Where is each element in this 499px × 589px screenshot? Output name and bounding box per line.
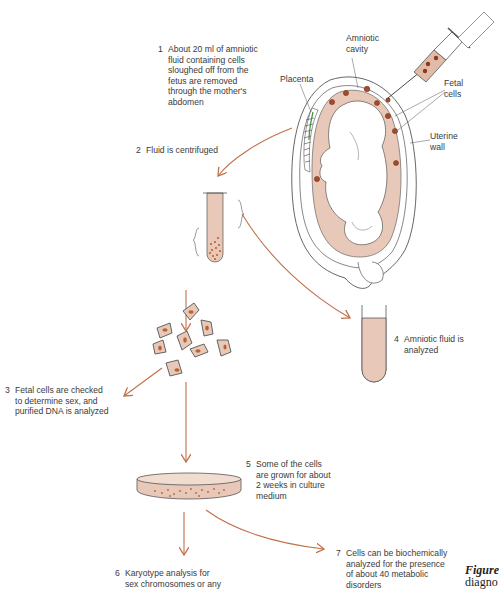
arrow-to-biochem (206, 510, 324, 549)
centrifuge-tube (193, 193, 244, 262)
arrow-to-centrifuge (218, 128, 292, 176)
brace-pellet (193, 228, 199, 256)
step-5: 5 Some of the cells are grown for about … (246, 459, 331, 501)
step-number: 6 (115, 568, 120, 579)
fetal-cells-cluster (153, 303, 231, 376)
step-number: 4 (394, 334, 399, 345)
label-amniotic-cavity: Amniotic cavity (346, 33, 379, 54)
step-7: 7 Cells can be biochemically analyzed fo… (336, 548, 447, 589)
step-text: About 20 ml of amniotic fluid containing… (168, 44, 258, 108)
step-1: 1 About 20 ml of amniotic fluid containi… (158, 44, 258, 108)
arrow-to-step3 (124, 368, 162, 396)
label-uterine-wall: Uterine wall (430, 131, 458, 152)
supernatant-tube (362, 305, 386, 382)
step-3: 3 Fetal cells are checked to determine s… (5, 385, 109, 417)
step-number: 3 (5, 385, 10, 396)
caption-text: diagno (465, 575, 498, 589)
step-number: 7 (336, 548, 341, 559)
brace-supernatant (238, 200, 244, 228)
step-number: 2 (136, 145, 141, 156)
label-fetal-cells: Fetal cells (444, 78, 463, 99)
step-text: Amniotic fluid is analyzed (404, 334, 464, 355)
step-2: 2 Fluid is centrifuged (136, 145, 218, 156)
step-text: Fetal cells are checked to determine sex… (15, 385, 109, 417)
step-4: 4 Amniotic fluid is analyzed (394, 334, 464, 355)
step-text: Cells can be biochemically analyzed for … (346, 548, 447, 589)
uterus-drawing (292, 77, 416, 288)
step-text: Fluid is centrifuged (146, 145, 218, 156)
step-text: Some of the cells are grown for about 2 … (256, 459, 331, 501)
step-text: Karyotype analysis for sex chromosomes o… (125, 568, 221, 589)
figure-caption: Figurediagno (465, 564, 499, 588)
step-number: 1 (158, 44, 163, 55)
step-number: 5 (246, 459, 251, 470)
petri-dish (137, 473, 241, 499)
syringe (388, 12, 494, 98)
step-6: 6 Karyotype analysis for sex chromosomes… (115, 568, 221, 589)
label-placenta: Placenta (280, 74, 313, 85)
